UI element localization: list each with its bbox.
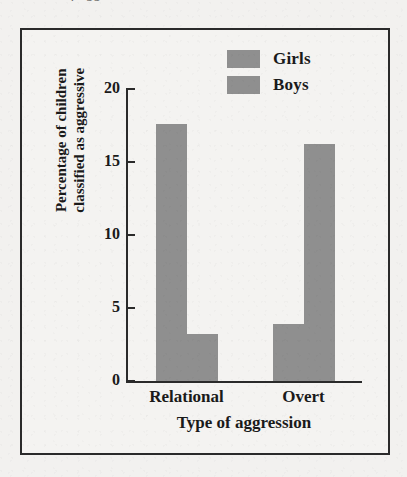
y-tick-label-5: 5 <box>80 299 120 315</box>
caption-sliver: of aggression <box>0 0 407 14</box>
figure-frame: Girls Boys 05101520 RelationalOvert Type… <box>20 28 390 455</box>
bar-boys-relational <box>187 334 218 381</box>
bars-area <box>128 89 362 381</box>
x-category-label-overt: Overt <box>234 387 374 407</box>
bar-girls-relational <box>156 124 187 381</box>
legend-swatch-boys <box>227 76 260 94</box>
y-axis-title-line1: Percentage of children <box>52 26 70 254</box>
caption-sliver-text: of aggression <box>64 0 145 2</box>
bar-girls-overt <box>273 324 304 381</box>
chart-legend: Girls Boys <box>227 46 311 98</box>
plot-area: 05101520 RelationalOvert Type of aggress… <box>22 30 388 453</box>
bar-boys-overt <box>304 144 335 381</box>
y-axis-title: Percentage of children classified as agg… <box>52 26 89 254</box>
y-axis-title-line2: classified as aggressive <box>70 26 88 254</box>
legend-entry-boys: Boys <box>227 72 311 98</box>
legend-label-girls: Girls <box>273 49 311 69</box>
x-axis-line <box>126 381 362 383</box>
x-axis-title: Type of aggression <box>126 413 362 433</box>
y-tick-label-0: 0 <box>80 372 120 388</box>
legend-entry-girls: Girls <box>227 46 311 72</box>
legend-swatch-girls <box>227 50 260 68</box>
legend-label-boys: Boys <box>273 75 309 95</box>
